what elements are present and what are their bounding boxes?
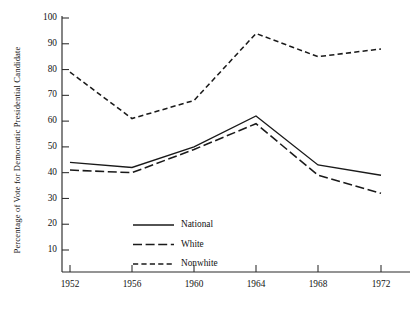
x-tick-label: 1952 bbox=[61, 279, 80, 289]
data-series-group bbox=[70, 33, 381, 193]
x-tick-label: 1960 bbox=[185, 279, 204, 289]
y-tick: 100 bbox=[43, 12, 69, 22]
x-tick-label: 1968 bbox=[309, 279, 328, 289]
y-tick-label: 30 bbox=[48, 193, 58, 203]
legend-label: White bbox=[181, 239, 204, 249]
y-tick-label: 70 bbox=[48, 89, 58, 99]
y-tick: 70 bbox=[48, 89, 69, 99]
y-tick-label: 100 bbox=[43, 12, 57, 22]
x-tick-label: 1964 bbox=[247, 279, 266, 289]
y-tick-label: 80 bbox=[48, 64, 58, 74]
series-line-nonwhite bbox=[70, 33, 381, 118]
y-axis-title-text: Percentage of Vote for Democratic Presid… bbox=[12, 46, 22, 253]
series-line-national bbox=[70, 116, 381, 175]
x-tick: 1972 bbox=[372, 265, 391, 289]
x-tick: 1960 bbox=[185, 265, 204, 289]
y-tick-label: 50 bbox=[48, 141, 58, 151]
x-tick: 1952 bbox=[61, 265, 80, 289]
line-chart: Percentage of Vote for Democratic Presid… bbox=[0, 0, 418, 324]
y-tick-label: 20 bbox=[48, 218, 58, 228]
chart-figure: Percentage of Vote for Democratic Presid… bbox=[0, 0, 418, 324]
y-tick-label: 10 bbox=[48, 244, 58, 254]
y-tick: 10 bbox=[48, 244, 69, 254]
legend-item-white: White bbox=[133, 239, 204, 249]
x-axis: 195219561960196419681972 bbox=[61, 265, 410, 289]
x-tick: 1956 bbox=[123, 265, 142, 289]
x-tick: 1964 bbox=[247, 265, 266, 289]
y-tick: 40 bbox=[48, 167, 69, 177]
y-tick: 20 bbox=[48, 218, 69, 228]
x-tick-label: 1956 bbox=[123, 279, 142, 289]
y-tick: 50 bbox=[48, 141, 69, 151]
y-tick: 90 bbox=[48, 38, 69, 48]
legend-item-nonwhite: Nonwhite bbox=[133, 258, 218, 268]
y-tick-label: 90 bbox=[48, 38, 58, 48]
y-tick: 80 bbox=[48, 64, 69, 74]
legend-label: Nonwhite bbox=[181, 258, 218, 268]
y-tick: 30 bbox=[48, 193, 69, 203]
y-tick-label: 40 bbox=[48, 167, 58, 177]
x-tick: 1968 bbox=[309, 265, 328, 289]
y-tick-label: 60 bbox=[48, 115, 58, 125]
series-line-white bbox=[70, 124, 381, 194]
y-axis: 102030405060708090100 bbox=[43, 12, 69, 272]
chart-legend: NationalWhiteNonwhite bbox=[133, 219, 218, 268]
y-axis-ticks: 102030405060708090100 bbox=[43, 12, 69, 254]
x-axis-ticks: 195219561960196419681972 bbox=[61, 265, 391, 289]
y-tick: 60 bbox=[48, 115, 69, 125]
x-tick-label: 1972 bbox=[372, 279, 391, 289]
y-axis-title: Percentage of Vote for Democratic Presid… bbox=[12, 46, 22, 253]
legend-label: National bbox=[181, 219, 213, 229]
legend-item-national: National bbox=[133, 219, 213, 229]
